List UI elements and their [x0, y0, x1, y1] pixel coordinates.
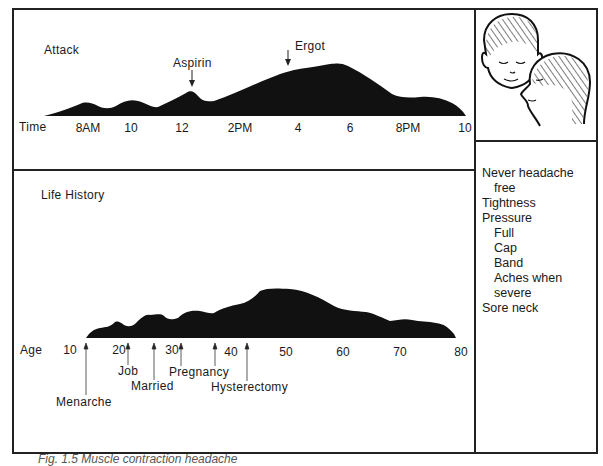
heads-illustration — [482, 14, 590, 126]
time-tick: 6 — [347, 121, 354, 135]
symptom-item: Sore neck — [482, 301, 538, 316]
event-married: Married — [131, 379, 174, 393]
event-hysterectomy: Hysterectomy — [211, 380, 288, 394]
event-job: Job — [118, 364, 138, 378]
figure-caption: Fig. 1.5 Muscle contraction headache — [38, 452, 237, 466]
life-history-intensity-curve — [86, 288, 456, 338]
event-pregnancy: Pregnancy — [169, 365, 229, 379]
age-tick: 20 — [112, 343, 125, 357]
time-tick: 10 — [458, 121, 471, 135]
symptom-item: Tightness — [482, 196, 536, 211]
age-tick: 70 — [393, 345, 406, 359]
ergot-annotation: Ergot — [295, 39, 325, 53]
age-tick: 10 — [63, 343, 76, 357]
time-tick: 2PM — [228, 121, 253, 135]
age-tick: 80 — [454, 345, 467, 359]
symptom-item: Full — [494, 226, 514, 241]
symptom-item: Aches when — [494, 271, 562, 286]
age-tick: 30 — [165, 343, 178, 357]
attack-panel-title: Attack — [44, 43, 79, 57]
attack-intensity-curve — [44, 63, 466, 116]
time-tick: 8PM — [396, 121, 421, 135]
time-tick: 4 — [295, 121, 302, 135]
time-tick: 12 — [175, 121, 188, 135]
event-menarche: Menarche — [56, 395, 112, 409]
life-history-panel-title: Life History — [41, 188, 105, 202]
aspirin-annotation: Aspirin — [173, 56, 212, 70]
age-tick: 40 — [224, 345, 237, 359]
symptom-item: Cap — [494, 241, 517, 256]
symptom-item: free — [494, 181, 516, 196]
age-tick: 60 — [336, 345, 349, 359]
symptom-item: Pressure — [482, 211, 532, 226]
time-axis-label: Time — [19, 120, 46, 134]
age-tick: 50 — [279, 345, 292, 359]
time-tick: 10 — [124, 121, 137, 135]
symptom-item: Never headache — [482, 166, 574, 181]
time-tick: 8AM — [76, 121, 101, 135]
age-axis-label: Age — [20, 343, 42, 357]
symptom-item: Band — [494, 256, 523, 271]
symptom-item: severe — [494, 286, 532, 301]
